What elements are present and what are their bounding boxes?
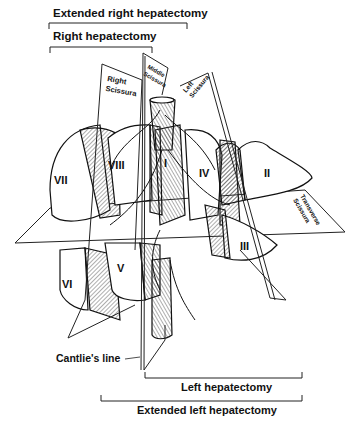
left-scissura-label: Left Scissura [181,68,210,99]
segment-viii-label: VIII [108,159,125,171]
right-scissura-label: Right Scissura [105,74,140,98]
transverse-scissura-label: Transverse Scissura [292,193,323,232]
segment-ii-label: II [264,167,270,179]
segment-iv-label: IV [199,167,210,179]
right-bracket [50,47,152,53]
segment-v-label: V [117,262,125,274]
cantlie-leader [125,357,140,359]
liver-diagram: Right Scissura Middle Scissura Left Scis… [0,0,355,425]
segment-vii-label: VII [54,174,67,186]
extended-left-hepatectomy-label: Extended left hepatectomy [137,405,277,416]
segment-vi-label: VI [62,278,72,290]
cantlies-line-label: Cantlie's line [56,353,120,364]
segment-iii-label: III [240,240,249,252]
extended-left-bracket [101,395,302,401]
right-hepatectomy-label: Right hepatectomy [53,31,157,43]
left-hepatectomy-label: Left hepatectomy [181,382,272,393]
segment-i-label: I [164,157,167,169]
extended-right-bracket [49,23,187,29]
extended-right-hepatectomy-label: Extended right hepatectomy [53,8,208,20]
left-bracket [145,372,302,378]
